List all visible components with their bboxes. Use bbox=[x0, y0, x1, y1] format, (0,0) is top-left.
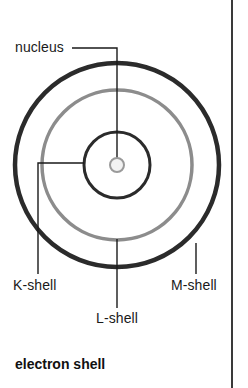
figure-caption: electron shell bbox=[15, 357, 105, 372]
m-shell-label: M-shell bbox=[171, 278, 217, 292]
nucleus-label: nucleus bbox=[15, 40, 64, 54]
electron-shell-figure: nucleus K-shell L-shell M-shell electron… bbox=[0, 0, 248, 388]
l-shell-label: L-shell bbox=[96, 311, 138, 325]
nucleus-circle bbox=[110, 158, 124, 172]
electron-shell-diagram bbox=[0, 0, 248, 388]
right-border-rule bbox=[231, 0, 233, 388]
k-shell-label: K-shell bbox=[13, 278, 57, 292]
